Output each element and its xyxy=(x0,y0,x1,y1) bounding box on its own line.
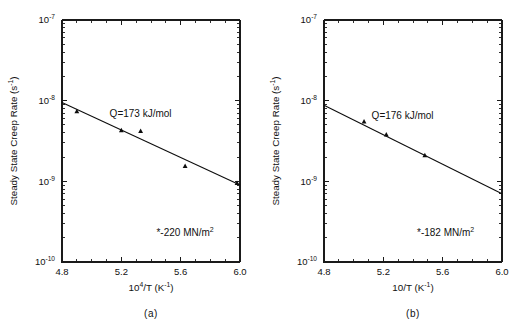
annotation-activation-energy: Q=173 kJ/mol xyxy=(110,108,172,119)
data-point xyxy=(119,128,124,132)
annotation-stress-level: *-220 MN/m2 xyxy=(156,226,213,238)
panel-b-plot: 4.85.25.66.010-1010-910-810-7Q=176 kJ/mo… xyxy=(262,0,524,329)
x-tick-label: 4.8 xyxy=(55,266,68,277)
figure-two-panel-arrhenius-plots: 4.85.25.66.010-1010-910-810-7Q=173 kJ/mo… xyxy=(0,0,524,329)
x-tick-label: 5.6 xyxy=(174,266,187,277)
data-point xyxy=(74,109,79,113)
y-tick-label: 10-7 xyxy=(301,13,318,25)
y-axis-title: Steady State Creep Rate (s-1) xyxy=(7,76,19,205)
x-axis-title: 10/T (K-1) xyxy=(392,281,433,293)
x-tick-label: 5.6 xyxy=(436,266,449,277)
y-tick-label: 10-8 xyxy=(39,94,56,106)
y-tick-label: 10-7 xyxy=(39,13,56,25)
data-point xyxy=(362,119,367,123)
y-tick-label: 10-10 xyxy=(35,255,55,267)
x-tick-label: 5.2 xyxy=(115,266,128,277)
axis-spines xyxy=(324,20,502,262)
data-point xyxy=(138,129,143,133)
x-axis-title: 104/T (K-1) xyxy=(128,281,173,293)
panel-caption: (b) xyxy=(406,308,420,319)
y-tick-label: 10-9 xyxy=(301,175,318,187)
x-tick-label: 6.0 xyxy=(233,266,246,277)
y-tick-label: 10-8 xyxy=(301,94,318,106)
x-tick-label: 5.2 xyxy=(377,266,390,277)
data-point xyxy=(183,163,188,167)
panel-b: 4.85.25.66.010-1010-910-810-7Q=176 kJ/mo… xyxy=(262,0,524,329)
annotation-stress-level: *-182 MN/m2 xyxy=(417,226,474,238)
x-tick-label: 4.8 xyxy=(317,266,330,277)
x-tick-label: 6.0 xyxy=(495,266,508,277)
y-tick-label: 10-9 xyxy=(39,175,56,187)
panel-caption: (a) xyxy=(144,308,158,319)
y-tick-label: 10-10 xyxy=(297,255,317,267)
panel-a: 4.85.25.66.010-1010-910-810-7Q=173 kJ/mo… xyxy=(0,0,262,329)
data-point xyxy=(384,132,389,136)
y-axis-title: Steady State Creep Rate (s-1) xyxy=(269,76,281,205)
annotation-activation-energy: Q=176 kJ/mol xyxy=(372,110,434,121)
panel-a-plot: 4.85.25.66.010-1010-910-810-7Q=173 kJ/mo… xyxy=(0,0,262,329)
